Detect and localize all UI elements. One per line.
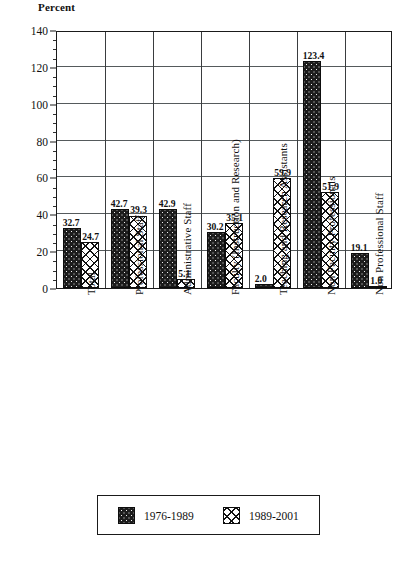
x-axis-category-label: Non Faculty Professionals [325,176,337,295]
bar: 2.0 [255,284,273,288]
bar-value-label: 19.1 [351,243,368,253]
plot-area: 32.724.742.739.342.95.130.235.12.059.912… [56,31,392,289]
gridline-horizontal [57,176,391,177]
bar-value-label: 123.4 [303,51,325,61]
gridline-vertical [345,32,346,288]
y-axis-tick-label: 120 [31,62,48,74]
y-axis-tick-label: 100 [31,99,48,111]
bar: 42.9 [159,209,177,288]
bar-value-label: 42.7 [111,199,128,209]
x-axis-category-label: Professional Staff [133,215,145,295]
legend-entry: 1989-2001 [223,507,299,524]
gridline-vertical [153,32,154,288]
bar-value-label: 42.9 [159,199,176,209]
bar-value-label: 30.2 [207,222,224,232]
bar: 123.4 [303,61,321,288]
bar: 32.7 [63,228,81,288]
gridline-horizontal [57,140,391,141]
y-axis-tick-label: 20 [37,246,49,258]
x-axis-category-label: Administrative Staff [181,203,193,295]
x-axis-category-label: Faculty (Instruction and Research) [229,139,241,295]
x-axis-category-label: Non Professional Staff [373,193,385,295]
bar-value-label: 24.7 [82,232,99,242]
legend-swatch [223,507,240,524]
gridline-horizontal [57,103,391,104]
gridline-horizontal [57,213,391,214]
gridline-vertical [297,32,298,288]
gridline-vertical [105,32,106,288]
legend-swatch [118,507,135,524]
gridline-vertical [201,32,202,288]
legend-label: 1976-1989 [144,510,194,522]
y-axis-tick-label: 80 [37,136,49,148]
bar: 19.1 [351,253,369,288]
legend-label: 1989-2001 [249,510,299,522]
gridline-horizontal [57,66,391,67]
bar: 30.2 [207,232,225,288]
bar-value-label: 32.7 [63,218,80,228]
bar: 42.7 [111,209,129,288]
gridline-vertical [249,32,250,288]
bar-value-label: 39.3 [130,205,147,215]
x-axis-category-label: Total [85,272,97,295]
y-axis-tick-label: 0 [42,283,48,295]
y-axis-tick-label: 40 [37,209,49,221]
y-axis: 020406080100120140 [0,0,56,561]
legend-entry: 1976-1989 [118,507,194,524]
bar-value-label: 2.0 [255,274,267,284]
chart-legend: 1976-19891989-2001 [97,495,320,535]
y-axis-tick-label: 140 [31,25,48,37]
x-axis-category-label: Teaching and Research Assistants [277,143,289,295]
y-axis-tick-label: 60 [37,172,49,184]
